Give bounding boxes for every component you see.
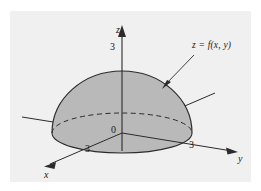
equation-leader-line: [166, 55, 194, 84]
tick-label-x-3: 3: [85, 144, 90, 154]
axis-y-arrowhead: [226, 148, 238, 155]
tick-label-z-3: 3: [110, 42, 115, 52]
axis-label-y: y: [238, 154, 242, 164]
hemisphere-diagram: [10, 11, 251, 182]
tick-label-y-3: 3: [189, 140, 194, 150]
figure-root: z 3 y 3 x 3 0 z = f(x, y): [0, 0, 261, 191]
surface-equation-label: z = f(x, y): [192, 41, 231, 51]
axis-x-arrowhead: [44, 162, 56, 169]
origin-label: 0: [111, 125, 116, 135]
axis-label-x: x: [44, 170, 48, 180]
figure-panel: z 3 y 3 x 3 0 z = f(x, y): [10, 11, 251, 182]
axis-label-z: z: [116, 25, 120, 35]
